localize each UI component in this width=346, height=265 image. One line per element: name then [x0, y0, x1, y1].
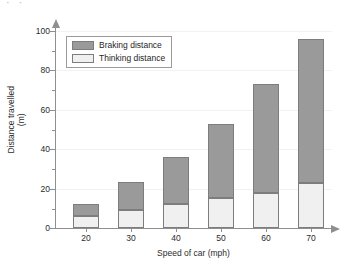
x-axis-title: Speed of car (mph): [55, 248, 332, 258]
y-tick-label-100: 100: [28, 27, 50, 36]
x-tick-label-30: 30: [114, 234, 148, 243]
x-tick-20: [86, 228, 87, 232]
x-tick-50: [221, 228, 222, 232]
x-tick-40: [176, 228, 177, 232]
legend-swatch-thinking-icon: [72, 54, 94, 63]
x-axis-line: [55, 228, 332, 229]
x-tick-label-60: 60: [249, 234, 283, 243]
y-tick-label-80: 80: [28, 66, 50, 75]
bar-segment-thinking-30[interactable]: [118, 210, 144, 228]
x-tick-70: [311, 228, 312, 232]
bar-segment-thinking-60[interactable]: [253, 193, 279, 229]
legend-item-thinking-distance[interactable]: Thinking distance: [72, 54, 165, 63]
bar-segment-thinking-50[interactable]: [208, 198, 234, 228]
y-tick-label-0: 0: [28, 224, 50, 233]
bar-segment-braking-20[interactable]: [73, 204, 99, 216]
x-tick-label-70: 70: [294, 234, 328, 243]
legend-swatch-braking-icon: [72, 41, 94, 50]
bar-segment-thinking-70[interactable]: [298, 183, 324, 228]
x-tick-label-50: 50: [204, 234, 238, 243]
chart-legend: Braking distance Thinking distance: [66, 36, 172, 68]
x-tick-label-20: 20: [69, 234, 103, 243]
legend-label-braking: Braking distance: [99, 41, 162, 50]
y-tick-label-20: 20: [28, 185, 50, 194]
bar-segment-braking-40[interactable]: [163, 157, 189, 204]
bar-segment-thinking-20[interactable]: [73, 216, 99, 228]
y-axis-title: Distance travelled (m): [7, 65, 27, 175]
x-tick-60: [266, 228, 267, 232]
bar-segment-braking-60[interactable]: [253, 84, 279, 192]
x-tick-label-40: 40: [159, 234, 193, 243]
y-tick-label-60: 60: [28, 106, 50, 115]
y-tick-label-40: 40: [28, 145, 50, 154]
legend-item-braking-distance[interactable]: Braking distance: [72, 41, 165, 50]
bar-segment-thinking-40[interactable]: [163, 204, 189, 228]
bar-segment-braking-30[interactable]: [118, 182, 144, 211]
bar-segment-braking-70[interactable]: [298, 39, 324, 183]
legend-label-thinking: Thinking distance: [99, 54, 165, 63]
x-tick-30: [131, 228, 132, 232]
stacked-bar-chart: · · 100 80 60 40 20 0 Distance travelled…: [0, 0, 346, 265]
crop-artifact-text: · ·: [6, 0, 25, 8]
bar-segment-braking-50[interactable]: [208, 124, 234, 199]
y-axis-title-line2: (m): [17, 65, 27, 175]
